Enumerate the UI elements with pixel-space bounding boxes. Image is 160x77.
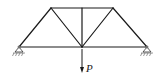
member-left-diagonal bbox=[19, 8, 51, 47]
load-label: P bbox=[86, 63, 93, 74]
truss-diagram bbox=[0, 0, 160, 77]
arrow-head-icon bbox=[80, 67, 84, 73]
member-right-diagonal bbox=[113, 8, 147, 47]
load-arrow bbox=[80, 49, 84, 73]
truss-members bbox=[19, 8, 147, 47]
member-inner-left-diagonal bbox=[51, 8, 82, 47]
member-inner-right-diagonal bbox=[82, 8, 113, 47]
